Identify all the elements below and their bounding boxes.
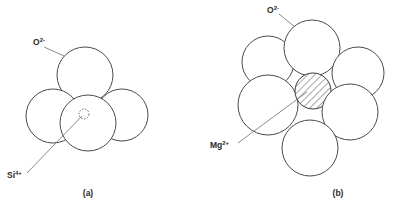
- magnesium-label-base-b: Mg: [210, 140, 222, 150]
- oxygen-label-charge-b: 2-: [274, 5, 279, 11]
- oxygen-ion-front-a: [60, 95, 116, 151]
- oxygen-ion-top-b: [284, 20, 340, 76]
- magnesium-label-charge-b: 2+: [222, 140, 229, 146]
- silicon-label-charge-a: 4+: [15, 170, 22, 176]
- figure-canvas: O2- Si4+ (a) O2- Mg2+ (b): [0, 0, 398, 211]
- oxygen-ion-bottom-b: [282, 120, 338, 176]
- ionic-coordination-figure: O2- Si4+ (a) O2- Mg2+ (b): [0, 0, 398, 211]
- panel-b-caption: (b): [333, 188, 344, 198]
- silicon-label-base-a: Si: [7, 170, 15, 180]
- oxygen-label-charge-a: 2-: [40, 37, 45, 43]
- panel-a-caption: (a): [83, 188, 94, 198]
